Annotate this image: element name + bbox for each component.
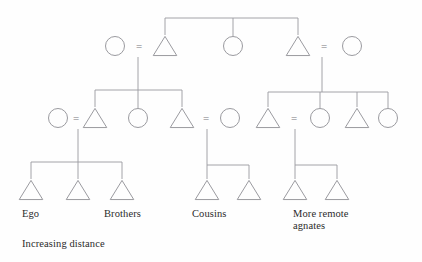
male-kin-triangle bbox=[325, 180, 349, 199]
female-kin-circle bbox=[343, 37, 362, 56]
marriage-equals-sign: = bbox=[291, 112, 297, 124]
male-kin-triangle bbox=[195, 180, 219, 199]
kinship-diagram-canvas: ===== bbox=[0, 0, 422, 262]
marriage-equals-sign: = bbox=[136, 40, 142, 52]
male-kin-triangle bbox=[286, 36, 310, 55]
marriage-equals-sign: = bbox=[73, 112, 79, 124]
descent-links-layer bbox=[31, 18, 388, 179]
female-kin-circle bbox=[379, 109, 398, 128]
marriage-equals-sign: = bbox=[203, 112, 209, 124]
increasing-distance-caption: Increasing distance bbox=[22, 238, 105, 249]
female-kin-circle bbox=[129, 109, 148, 128]
label-cousins: Cousins bbox=[192, 208, 227, 220]
female-kin-circle bbox=[49, 109, 68, 128]
male-kin-triangle bbox=[283, 180, 307, 199]
male-kin-triangle bbox=[170, 108, 194, 127]
female-kin-circle bbox=[106, 37, 125, 56]
female-kin-circle bbox=[311, 109, 330, 128]
female-kin-circle bbox=[221, 109, 240, 128]
male-kin-triangle bbox=[153, 36, 177, 55]
male-kin-triangle bbox=[66, 180, 90, 199]
marriage-unions-layer: ===== bbox=[73, 40, 327, 124]
male-kin-triangle bbox=[110, 180, 134, 199]
label-ego: Ego bbox=[22, 208, 39, 220]
male-kin-triangle bbox=[83, 108, 107, 127]
female-kin-circle bbox=[224, 37, 243, 56]
male-kin-triangle bbox=[237, 180, 261, 199]
male-kin-triangle bbox=[19, 180, 43, 199]
male-kin-triangle bbox=[345, 108, 369, 127]
label-brothers: Brothers bbox=[104, 208, 141, 220]
marriage-equals-sign: = bbox=[321, 40, 327, 52]
male-kin-triangle bbox=[256, 108, 280, 127]
label-agnates: More remote agnates bbox=[293, 208, 349, 231]
kinship-diagram-page: ===== EgoBrothersCousinsMore remote agna… bbox=[0, 0, 422, 262]
